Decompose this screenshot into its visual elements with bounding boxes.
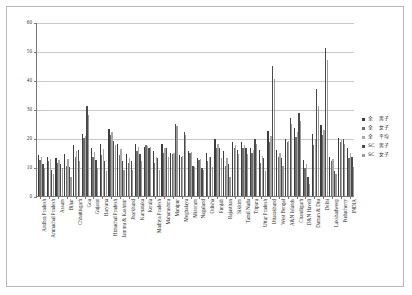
x-axis-label: Punjab — [219, 199, 224, 213]
legend-category-label: 全 — [368, 117, 379, 122]
bar-group — [46, 23, 55, 196]
chart-frame: 0102030405060 Andhra PradeshArunachal Pr… — [6, 6, 404, 287]
legend-series-label: 女子 — [379, 126, 389, 131]
bar-group — [196, 23, 205, 196]
x-axis-label: Sikkim — [237, 199, 242, 214]
x-axis-label: Chandigarh — [299, 199, 304, 223]
bar-group — [249, 23, 258, 196]
y-tick-label: 40 — [27, 78, 32, 83]
legend-category-label: SC — [368, 153, 379, 158]
x-axis-label: Kerala — [148, 199, 153, 213]
x-axis-label: Jammu & Kashmir — [122, 199, 127, 238]
x-axis-label: Andhra Pradesh — [42, 199, 47, 232]
bar-group — [240, 23, 249, 196]
x-axis-label: Maharashtra — [166, 199, 171, 224]
bar-group — [223, 23, 232, 196]
x-axis-label: Nagaland — [201, 199, 206, 219]
bar-group — [72, 23, 81, 196]
bar-group — [276, 23, 285, 196]
y-tick-label: 30 — [27, 107, 32, 112]
bar-group — [329, 23, 338, 196]
legend-series-label: 女子 — [379, 153, 389, 158]
legend-series-label: 男子 — [379, 144, 389, 149]
legend-series-label: 男子 — [379, 117, 389, 122]
x-axis-label: Tripura — [254, 199, 259, 214]
y-tick-mark — [34, 197, 37, 198]
y-tick-label: 20 — [27, 136, 32, 141]
bar-group — [302, 23, 311, 196]
plot-area: 0102030405060 — [36, 23, 354, 197]
legend-item[interactable]: SC女子 — [362, 151, 389, 160]
bar-group — [81, 23, 90, 196]
x-axis-label: Madhya Pradesh — [157, 199, 162, 233]
x-axis-label: Goa — [87, 199, 92, 208]
legend-swatch-icon — [362, 154, 365, 157]
x-axis-label: Rajasthan — [228, 199, 233, 219]
x-axis-label: Delhi — [325, 199, 330, 210]
bar-group — [161, 23, 170, 196]
x-axis-label: Lakshadweep — [334, 199, 339, 227]
chart-legend: 全男子全女子全平均SC男子SC女子 — [362, 115, 389, 160]
x-axis-label: West Bengal — [281, 199, 286, 225]
x-axis-label: Karnataka — [140, 199, 145, 220]
bar-group — [231, 23, 240, 196]
bar-group — [337, 23, 346, 196]
bar-group — [258, 23, 267, 196]
bar — [353, 167, 354, 196]
bar-group — [64, 23, 73, 196]
legend-swatch-icon — [362, 127, 365, 130]
x-axis-label: Uttarakhand — [272, 199, 277, 224]
legend-item[interactable]: 全平均 — [362, 133, 389, 142]
legend-swatch-icon — [362, 145, 365, 148]
bar-group — [311, 23, 320, 196]
bar-group — [99, 23, 108, 196]
x-axis-label: Uttar Pradesh — [263, 199, 268, 227]
x-axis-label: Chhattisgarh — [78, 199, 83, 225]
bar-group — [214, 23, 223, 196]
legend-category-label: SC — [368, 144, 379, 149]
bar-group — [117, 23, 126, 196]
y-tick-label: 0 — [29, 194, 32, 199]
bar-group — [134, 23, 143, 196]
legend-swatch-icon — [362, 136, 365, 139]
bar-group — [284, 23, 293, 196]
bar-group — [205, 23, 214, 196]
bar-group — [346, 23, 355, 196]
bar-group — [293, 23, 302, 196]
x-axis-label: Himachal Pradesh — [113, 199, 118, 236]
x-axis-label: Tamil Nadu — [246, 199, 251, 223]
x-axis-label: Bihar — [69, 199, 74, 210]
x-axis-label: Gujarat — [95, 199, 100, 214]
x-axis-label: Assam — [60, 199, 65, 213]
legend-item[interactable]: 全女子 — [362, 124, 389, 133]
x-axis-label: Jharkhand — [131, 199, 136, 220]
x-axis-label: Arunachal Pradesh — [51, 199, 56, 238]
y-tick-label: 10 — [27, 165, 32, 170]
bar-group — [178, 23, 187, 196]
bar-group — [90, 23, 99, 196]
bar-group — [320, 23, 329, 196]
x-axis-label: D&N Haveli — [307, 199, 312, 225]
x-axis-label: INDIA — [352, 199, 357, 213]
y-tick-label: 50 — [27, 49, 32, 54]
legend-category-label: 全 — [368, 135, 379, 140]
x-axis-labels: Andhra PradeshArunachal PradeshAssamBiha… — [36, 199, 354, 289]
y-tick-label: 60 — [27, 20, 32, 25]
x-axis-label: Haryana — [104, 199, 109, 216]
bar-group — [37, 23, 46, 196]
bar-group — [125, 23, 134, 196]
bar-group — [267, 23, 276, 196]
x-axis-label: Meghalaya — [184, 199, 189, 222]
bar-group — [143, 23, 152, 196]
bar-series-container — [37, 23, 354, 196]
bar-group — [187, 23, 196, 196]
x-axis-label: Daman & Diu — [316, 199, 321, 228]
legend-category-label: 全 — [368, 126, 379, 131]
bar-group — [108, 23, 117, 196]
legend-item[interactable]: 全男子 — [362, 115, 389, 124]
x-axis-label: Mizoram — [193, 199, 198, 218]
bar-group — [170, 23, 179, 196]
x-axis-label: Puducherry — [343, 199, 348, 222]
legend-series-label: 平均 — [379, 135, 389, 140]
legend-item[interactable]: SC男子 — [362, 142, 389, 151]
